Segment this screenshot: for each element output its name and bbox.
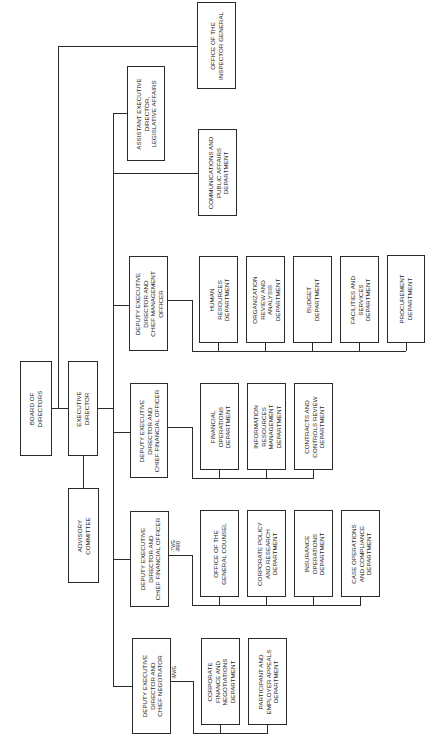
connector-line xyxy=(219,597,220,605)
box-label: EXECUTIVE DIRECTOR xyxy=(75,391,90,427)
advisory-committee-box: ADVISORY COMMITTEE xyxy=(68,488,99,583)
connector-line xyxy=(359,343,360,351)
connector-line xyxy=(168,427,192,428)
box-label: PROCUREMENT DEPARTMENT xyxy=(398,274,413,323)
connector-line xyxy=(406,343,407,351)
connector-line xyxy=(312,343,313,351)
department-box: HUMAN RESOURCES DEPARTMENT xyxy=(199,256,238,343)
box-label: COMMUNICATIONS AND PUBLIC AFFAIRS DEPART… xyxy=(206,136,229,209)
connector-line xyxy=(58,46,197,47)
board-of-directors-box: BOARD OF DIRECTORS xyxy=(20,361,52,456)
department-box: ORGANIZATION REVIEW AND ANALYSIS DEPARTM… xyxy=(246,256,285,343)
org-chart: BOARD OF DIRECTORS EXECUTIVE DIRECTOR AD… xyxy=(0,0,436,744)
department-box: BUDGET DEPARTMENT xyxy=(293,256,332,343)
department-box: INSURANCE OPERATIONS DEPARTMENT xyxy=(294,510,333,597)
department-box: CONTRACTS AND CONTROLS REVIEW DEPARTMENT xyxy=(294,383,333,470)
connector-line xyxy=(193,733,268,734)
box-label: OFFICE OF THE INSPECTOR GENERAL xyxy=(209,11,224,79)
box-label: CONTRACTS AND CONTROLS REVIEW DEPARTMENT xyxy=(302,396,325,457)
connector-line xyxy=(113,173,198,174)
connector-line xyxy=(192,478,314,479)
communications-department-box: COMMUNICATIONS AND PUBLIC AFFAIRS DEPART… xyxy=(198,129,237,216)
connector-line xyxy=(266,597,267,605)
box-label: DEPUTY EXECUTIVE DIRECTOR AND CHIEF FINA… xyxy=(138,389,161,471)
connector-line xyxy=(192,605,361,606)
department-box: CORPORATE POLICY AND RESEARCH DEPARTMENT xyxy=(247,510,286,597)
chief-financial-officer-2-box: DEPUTY EXECUTIVE DIRECTOR AND CHIEF FINA… xyxy=(130,511,169,607)
department-box: FINANCIAL OPERATIONS DEPARTMENT xyxy=(200,383,239,470)
department-box: CORPORATE FINANCE AND NEGOTIATIONS DEPAR… xyxy=(201,638,240,725)
negotiator-annotation: -MWG xyxy=(173,666,178,679)
connector-line xyxy=(218,343,219,351)
department-box: PROCUREMENT DEPARTMENT xyxy=(387,255,425,343)
connector-line xyxy=(267,725,268,733)
department-box: PARTICIPANT AND EMPLOYER APPEALS DEPARTM… xyxy=(248,638,287,725)
chief-negotiator-box: DEPUTY EXECUTIVE DIRECTOR AND CHIEF NEGO… xyxy=(132,638,171,734)
box-label: OFFICE OF THE GENERAL COUNSEL xyxy=(212,523,227,585)
connector-line xyxy=(360,597,361,605)
connector-line xyxy=(220,725,221,733)
connector-line xyxy=(265,343,266,351)
connector-line xyxy=(98,408,113,409)
box-label: CASE OPERATIONS AND COMPLIANCE DEPARTMEN… xyxy=(349,524,372,583)
connector-line xyxy=(193,681,194,734)
box-label: BUDGET DEPARTMENT xyxy=(305,278,320,321)
box-label: INSURANCE OPERATIONS DEPARTMENT xyxy=(302,532,325,575)
department-box: OFFICE OF THE GENERAL COUNSEL xyxy=(200,510,239,597)
connector-line xyxy=(266,470,267,478)
connector-line xyxy=(192,300,193,352)
department-box: FACILITIES AND SERVICES DEPARTMENT xyxy=(340,256,379,343)
chief-management-officer-box: DEPUTY EXECUTIVE DIRECTOR AND CHIEF MANA… xyxy=(129,256,168,351)
box-label: BOARD OF DIRECTORS xyxy=(28,390,43,427)
connector-line xyxy=(219,470,220,478)
department-box: CASE OPERATIONS AND COMPLIANCE DEPARTMEN… xyxy=(341,510,380,597)
connector-line xyxy=(113,559,130,560)
connector-line xyxy=(169,555,192,556)
box-label: FINANCIAL OPERATIONS DEPARTMENT xyxy=(208,405,231,448)
connector-line xyxy=(83,456,84,488)
box-label: INFORMATION RESOURCES MANAGEMENT DEPARTM… xyxy=(251,404,281,449)
box-label: HUMAN RESOURCES DEPARTMENT xyxy=(207,278,230,321)
box-label: ORGANIZATION REVIEW AND ANALYSIS DEPARTM… xyxy=(250,276,280,323)
box-label: ADVISORY COMMITTEE xyxy=(76,517,91,555)
box-label: CORPORATE POLICY AND RESEARCH DEPARTMENT xyxy=(255,522,278,586)
connector-line xyxy=(313,597,314,605)
department-box: INFORMATION RESOURCES MANAGEMENT DEPARTM… xyxy=(247,383,286,470)
connector-line xyxy=(113,305,129,306)
box-label: DEPUTY EXECUTIVE DIRECTOR AND CHIEF FINA… xyxy=(138,518,161,600)
inspector-general-box: OFFICE OF THE INSPECTOR GENERAL xyxy=(197,2,236,89)
connector-line xyxy=(192,351,406,352)
connector-line xyxy=(52,408,68,409)
connector-line xyxy=(58,47,59,409)
assistant-executive-director-box: ASSISTANT EXECUTIVE DIRECTOR, LEGISLATIV… xyxy=(127,66,165,161)
executive-director-box: EXECUTIVE DIRECTOR xyxy=(68,361,98,456)
connector-line xyxy=(192,555,193,606)
box-label: CORPORATE FINANCE AND NEGOTIATIONS DEPAR… xyxy=(205,658,235,705)
box-label: DEPUTY EXECUTIVE DIRECTOR AND CHIEF NEGO… xyxy=(140,655,163,718)
cfo2-annotation: -TWG -PRO xyxy=(172,540,182,552)
connector-line xyxy=(168,300,192,301)
connector-line xyxy=(113,686,132,687)
chief-financial-officer-box: DEPUTY EXECUTIVE DIRECTOR AND CHIEF FINA… xyxy=(130,383,168,478)
box-label: PARTICIPANT AND EMPLOYER APPEALS DEPARTM… xyxy=(256,649,279,714)
box-label: ASSISTANT EXECUTIVE DIRECTOR, LEGISLATIV… xyxy=(135,78,158,150)
connector-line xyxy=(192,427,193,479)
box-label: FACILITIES AND SERVICES DEPARTMENT xyxy=(348,276,371,324)
connector-line xyxy=(171,681,193,682)
box-label: DEPUTY EXECUTIVE DIRECTOR AND CHIEF MANA… xyxy=(133,271,163,336)
connector-line xyxy=(113,113,127,114)
connector-line xyxy=(313,470,314,478)
connector-line xyxy=(113,113,114,687)
connector-line xyxy=(113,432,130,433)
